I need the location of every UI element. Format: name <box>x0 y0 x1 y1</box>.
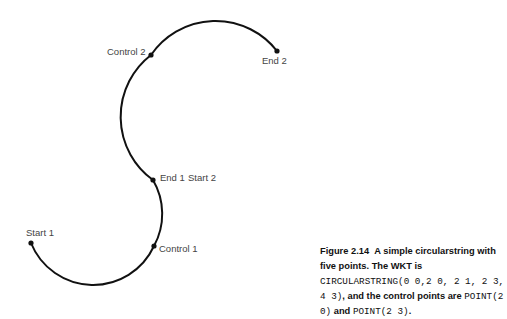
arc-2 <box>121 21 277 180</box>
start1-point <box>28 240 33 245</box>
control2-point <box>148 52 153 57</box>
label-control2: Control 2 <box>107 46 146 57</box>
label-end2: End 2 <box>262 55 287 66</box>
end2-point <box>274 48 279 53</box>
label-control1: Control 1 <box>159 243 198 254</box>
figure-caption: Figure 2.14 A simple circularstring with… <box>320 244 507 319</box>
caption-text-3: and <box>331 306 353 316</box>
label-start1: Start 1 <box>26 227 54 238</box>
label-start2: Start 2 <box>188 172 216 183</box>
label-end1: End 1 <box>160 172 185 183</box>
control1-point <box>151 243 156 248</box>
caption-text-4: . <box>409 306 412 316</box>
caption-point2: POINT(2 3) <box>353 306 409 317</box>
figure-number: Figure 2.14 <box>320 246 369 256</box>
end1-start2-point <box>150 177 155 182</box>
caption-text-2: , and the control points are <box>342 291 464 301</box>
